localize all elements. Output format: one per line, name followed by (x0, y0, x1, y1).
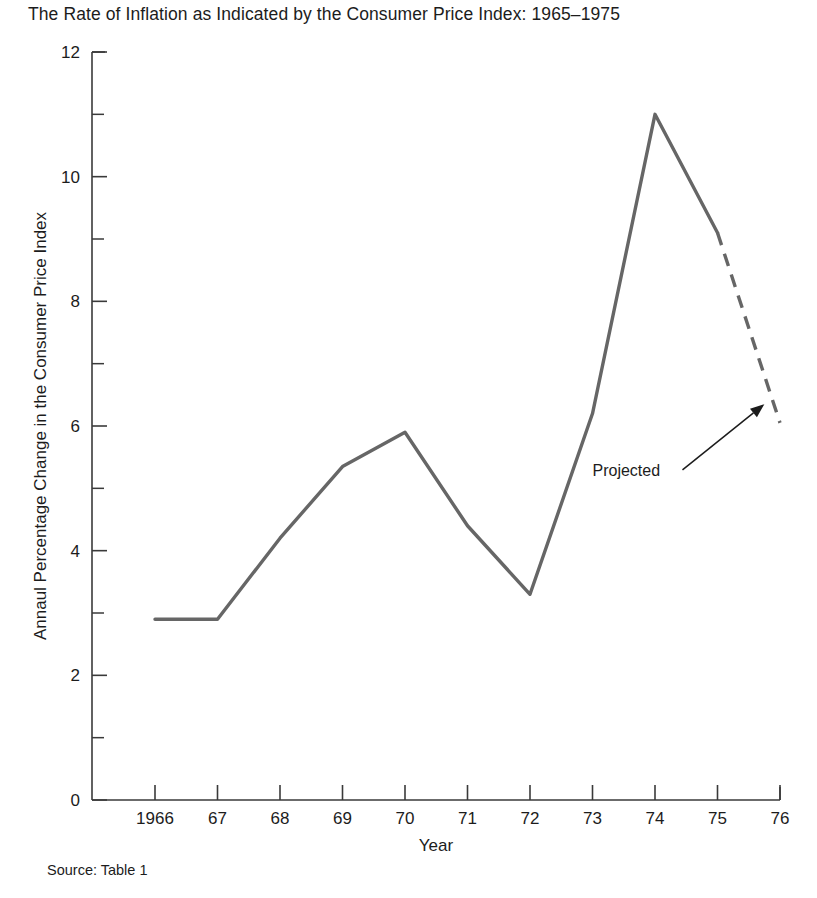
y-tick-label: 2 (71, 666, 80, 685)
x-tick-label: 74 (646, 809, 665, 828)
x-tick-label: 70 (396, 809, 415, 828)
chart-plot-area: 024681012 196667686970717273747576 Year … (0, 0, 817, 898)
figure-container: The Rate of Inflation as Indicated by th… (0, 0, 817, 898)
y-axis-major-ticks (92, 52, 107, 800)
y-axis-tick-labels: 024681012 (61, 43, 80, 810)
x-axis-ticks (155, 785, 780, 800)
x-tick-label: 68 (271, 809, 290, 828)
x-tick-label: 75 (708, 809, 727, 828)
y-tick-label: 12 (61, 43, 80, 62)
projected-annotation-label: Projected (593, 462, 661, 479)
x-tick-label: 69 (333, 809, 352, 828)
x-tick-label: 67 (208, 809, 227, 828)
y-tick-label: 8 (71, 292, 80, 311)
y-axis-title: Annaul Percentage Change in the Consumer… (31, 211, 50, 640)
axis-lines (92, 52, 780, 800)
x-axis-title: Year (419, 836, 454, 855)
x-tick-label: 71 (458, 809, 477, 828)
projected-annotation-arrow-line (683, 413, 754, 470)
projected-annotation: Projected (593, 404, 765, 479)
data-line-actual (155, 114, 718, 619)
x-axis-tick-labels: 196667686970717273747576 (136, 809, 789, 828)
y-tick-label: 6 (71, 417, 80, 436)
y-tick-label: 10 (61, 168, 80, 187)
x-tick-label: 76 (771, 809, 790, 828)
y-tick-label: 0 (71, 791, 80, 810)
projected-annotation-arrow-head (750, 404, 764, 417)
x-tick-label: 1966 (136, 809, 174, 828)
x-tick-label: 73 (583, 809, 602, 828)
y-tick-label: 4 (71, 542, 80, 561)
source-note: Source: Table 1 (47, 862, 148, 878)
x-tick-label: 72 (521, 809, 540, 828)
data-line-projected (718, 233, 781, 423)
